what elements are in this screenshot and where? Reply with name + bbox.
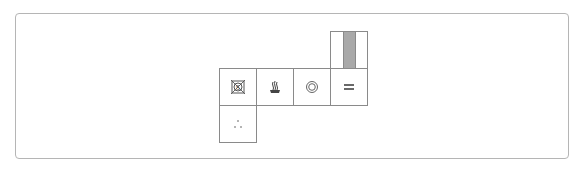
dry-flat-cell[interactable] [330, 68, 368, 106]
three-dots-icon [230, 116, 246, 132]
do-not-tumble-dry-cell[interactable]: S [219, 68, 257, 106]
equals-lines-icon [341, 79, 357, 95]
double-circle-icon [304, 79, 320, 95]
dry-clean-cell[interactable] [293, 68, 331, 106]
steam-cell[interactable] [256, 68, 294, 106]
level-bar-cell[interactable] [330, 31, 368, 69]
svg-text:S: S [236, 84, 240, 92]
steam-icon [267, 79, 283, 95]
crossed-square-circle-s-icon: S [230, 79, 246, 95]
gray-bar-icon [343, 32, 356, 68]
dots-cell[interactable] [219, 105, 257, 143]
